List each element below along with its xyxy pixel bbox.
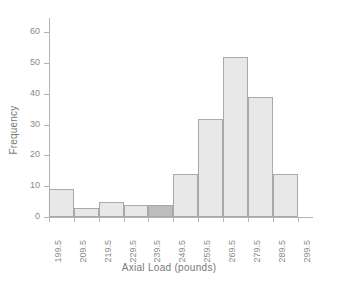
- x-axis-tick: [198, 217, 199, 222]
- x-axis-tick-label: 199.5: [53, 240, 63, 263]
- x-axis-tick: [273, 217, 274, 222]
- y-axis-tick-label: 20: [30, 149, 40, 159]
- histogram-bar: [74, 208, 99, 217]
- x-axis-tick-label: 269.5: [227, 240, 237, 263]
- y-axis-tick: 60: [44, 32, 50, 33]
- x-axis-tick: [99, 217, 100, 222]
- histogram-bar: [198, 119, 223, 217]
- x-axis-tick: [74, 217, 75, 222]
- x-axis-tick: [298, 217, 299, 222]
- histogram-bar: [49, 189, 74, 217]
- x-axis-title: Axial Load (pounds): [0, 262, 338, 273]
- y-axis-tick-label: 30: [30, 119, 40, 129]
- y-axis-tick: 10: [44, 186, 50, 187]
- y-axis-tick-label: 60: [30, 26, 40, 36]
- y-axis-tick: 20: [44, 155, 50, 156]
- x-axis-tick-label: 289.5: [277, 240, 287, 263]
- x-axis-tick-label: 239.5: [152, 240, 162, 263]
- histogram-bar: [99, 202, 124, 217]
- x-axis-tick-label: 299.5: [302, 240, 312, 263]
- y-axis-tick: 30: [44, 125, 50, 126]
- x-axis-tick-label: 219.5: [103, 240, 113, 263]
- histogram-bar: [148, 205, 173, 217]
- y-axis-tick-label: 50: [30, 57, 40, 67]
- y-axis-tick: 50: [44, 63, 50, 64]
- histogram-bar: [124, 205, 149, 217]
- histogram-figure: Frequency 0102030405060 199.5209.5219.52…: [0, 0, 338, 291]
- x-axis-tick-label: 279.5: [252, 240, 262, 263]
- y-axis-title: Frequency: [8, 60, 22, 200]
- x-axis-tick: [49, 217, 50, 222]
- histogram-bar: [173, 174, 198, 217]
- plot-area: 0102030405060 199.5209.5219.5229.5239.52…: [49, 18, 313, 218]
- y-axis-line: [49, 18, 50, 218]
- x-axis-tick: [124, 217, 125, 222]
- x-axis-tick: [248, 217, 249, 222]
- x-axis-tick: [173, 217, 174, 222]
- x-axis-tick-label: 229.5: [128, 240, 138, 263]
- x-axis-tick-label: 259.5: [202, 240, 212, 263]
- x-axis-tick: [223, 217, 224, 222]
- y-axis-tick-label: 40: [30, 88, 40, 98]
- y-axis-tick-label: 10: [30, 180, 40, 190]
- y-axis-tick-label: 0: [35, 211, 40, 221]
- histogram-bar: [273, 174, 298, 217]
- histogram-bar: [223, 57, 248, 217]
- y-axis-tick: 40: [44, 94, 50, 95]
- x-axis-tick-label: 249.5: [177, 240, 187, 263]
- histogram-bar: [248, 97, 273, 217]
- x-axis-tick: [148, 217, 149, 222]
- x-axis-tick-label: 209.5: [78, 240, 88, 263]
